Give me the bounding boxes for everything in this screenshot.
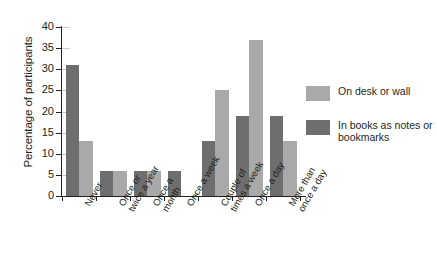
- y-axis-tick-label: 10: [24, 147, 54, 159]
- y-axis-tick-label: 0: [24, 189, 54, 201]
- legend: On desk or wallIn books as notes or book…: [306, 86, 437, 154]
- y-axis-tick-label: 15: [24, 126, 54, 138]
- y-axis-tick-label: 5: [24, 168, 54, 180]
- y-axis-tick-label: 35: [24, 41, 54, 53]
- y-axis-tick-label: 20: [24, 105, 54, 117]
- legend-label: On desk or wall: [338, 85, 437, 97]
- y-axis-tick-label: 40: [24, 20, 54, 32]
- y-axis-tick-label: 30: [24, 62, 54, 74]
- bar-chart: Percentage of participants 4035302520151…: [0, 0, 437, 279]
- plot-area: [62, 27, 300, 196]
- bar: [215, 90, 229, 196]
- legend-label: In books as notes or bookmarks: [338, 119, 437, 144]
- legend-item: In books as notes or bookmarks: [306, 120, 437, 142]
- x-axis-tick-mark: [62, 197, 63, 201]
- legend-swatch: [306, 86, 330, 101]
- legend-swatch: [306, 120, 330, 135]
- bar: [66, 65, 80, 196]
- legend-item: On desk or wall: [306, 86, 437, 108]
- y-axis-tick-label: 25: [24, 83, 54, 95]
